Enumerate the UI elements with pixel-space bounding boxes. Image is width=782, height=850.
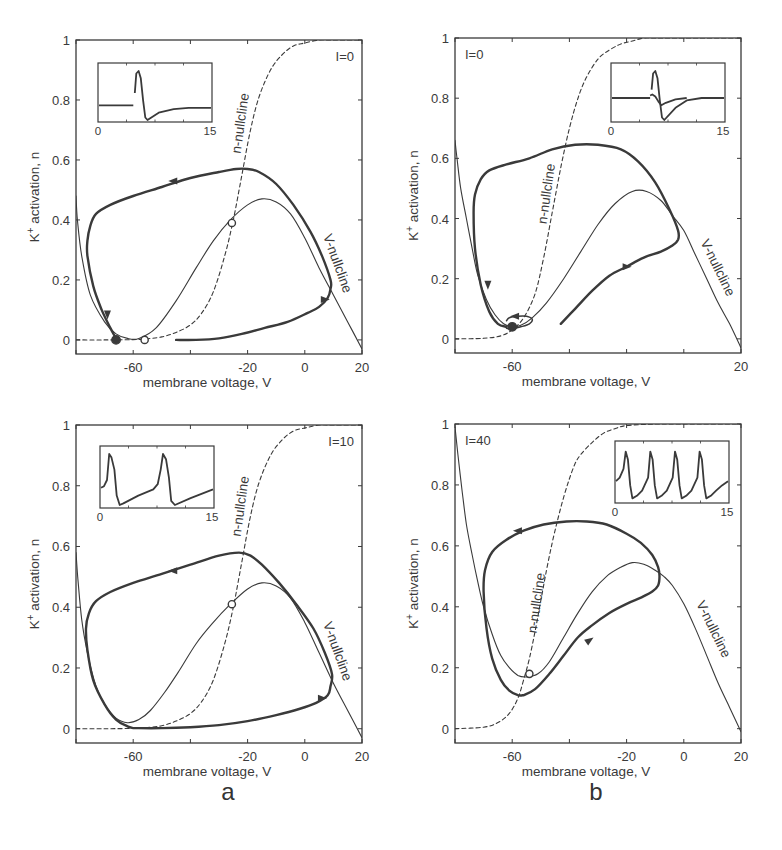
v-nullcline-label: V-nullcline (693, 598, 733, 660)
panel-b-bottom: -60-2002000.20.40.60.81membrane voltage,… (404, 417, 748, 779)
n-nullcline-label: n-nullcline (535, 163, 558, 225)
voltage-inset: 015 (97, 446, 219, 523)
y-tick-label: 1 (63, 33, 70, 48)
unstable-fixed-point-icon (141, 336, 148, 343)
limit-cycle-curve (484, 521, 660, 695)
x-tick-label: -60 (124, 749, 143, 764)
x-tick-label: 20 (355, 360, 369, 375)
y-tick-label: 0.6 (431, 151, 449, 166)
current-annotation: I=0 (336, 49, 354, 64)
panel-a-top: -60-2002000.20.40.60.81membrane voltage,… (25, 33, 369, 390)
limit-cycle-curve (86, 553, 332, 729)
y-tick-label: 0.6 (52, 539, 70, 554)
panel-a-bottom: -60-2002000.20.40.60.81membrane voltage,… (25, 418, 369, 779)
y-tick-label: 0.2 (431, 661, 449, 676)
y-tick-label: 0.8 (52, 93, 70, 108)
y-axis-label: K+ activation, n (404, 150, 421, 241)
inset-tick-label: 0 (608, 125, 614, 137)
x-tick-label: -20 (238, 360, 257, 375)
y-axis-label: K+ activation, n (25, 539, 42, 630)
x-tick-label: 0 (680, 749, 687, 764)
y-tick-label: 0.6 (431, 539, 449, 554)
y-tick-label: 0.2 (52, 273, 70, 288)
x-tick-label: 20 (734, 359, 748, 374)
x-tick-label: -60 (124, 360, 143, 375)
voltage-inset: 015 (95, 63, 217, 137)
v-nullcline-label: V-nullcline (698, 237, 738, 299)
inset-tick-label: 15 (206, 511, 219, 523)
n-nullcline-label: n-nullcline (229, 92, 252, 154)
voltage-inset: 015 (608, 63, 730, 137)
trajectory-curve (474, 144, 679, 327)
inset-tick-label: 15 (721, 506, 734, 518)
y-axis-label: K+ activation, n (25, 152, 42, 243)
inset-frame (611, 63, 725, 122)
unstable-fixed-point-icon (228, 601, 235, 608)
V-nullcline-curve (76, 196, 362, 349)
y-axis-label: K+ activation, n (404, 538, 421, 629)
n-nullcline-label: n-nullcline (525, 572, 548, 634)
current-annotation: I=0 (465, 47, 483, 62)
panel-b-top: -602000.20.40.60.81membrane voltage, VK+… (404, 31, 748, 389)
y-tick-label: 1 (442, 31, 449, 46)
y-tick-label: 0.6 (52, 153, 70, 168)
x-tick-label: 0 (301, 360, 308, 375)
x-tick-label: 20 (355, 749, 369, 764)
panel-letter-a: a (221, 778, 235, 805)
x-tick-label: 20 (734, 749, 748, 764)
inset-tick-label: 0 (612, 506, 618, 518)
y-tick-label: 0.4 (431, 600, 449, 615)
x-axis-label: membrane voltage, V (522, 374, 650, 389)
y-tick-label: 0 (442, 722, 449, 737)
panel-letter-b: b (589, 778, 602, 805)
phase-plane-figure: -60-2002000.20.40.60.81membrane voltage,… (0, 0, 782, 850)
trajectory-arrow-icon (168, 567, 177, 574)
inset-tick-label: 15 (204, 125, 217, 137)
y-tick-label: 1 (442, 417, 449, 432)
x-tick-label: 0 (301, 749, 308, 764)
y-tick-label: 0.8 (431, 478, 449, 493)
y-tick-label: 0 (63, 722, 70, 737)
y-tick-label: 0 (63, 333, 70, 348)
unstable-fixed-point-icon (526, 670, 533, 677)
x-axis-label: membrane voltage, V (143, 375, 271, 390)
y-tick-label: 0.4 (52, 213, 70, 228)
current-annotation: I=40 (465, 433, 491, 448)
y-tick-label: 1 (63, 418, 70, 433)
n-nullcline-label: n-nullcline (229, 475, 252, 537)
x-tick-label: -60 (503, 749, 522, 764)
x-axis-label: membrane voltage, V (522, 764, 650, 779)
trajectory-arrow-icon (484, 281, 491, 290)
inset-frame (98, 63, 212, 122)
x-tick-label: -60 (503, 359, 522, 374)
x-tick-label: -20 (238, 749, 257, 764)
trajectory-arrow-icon (510, 313, 519, 320)
y-tick-label: 0.8 (52, 479, 70, 494)
unstable-fixed-point-icon (228, 219, 235, 226)
stable-fixed-point-icon (112, 336, 120, 344)
current-annotation: I=10 (328, 434, 354, 449)
trajectory-curve (87, 169, 331, 340)
y-tick-label: 0.4 (52, 600, 70, 615)
x-tick-label: -20 (617, 749, 636, 764)
y-tick-label: 0.8 (431, 91, 449, 106)
x-axis-label: membrane voltage, V (143, 764, 271, 779)
trajectory-arrow-icon (584, 635, 595, 646)
y-tick-label: 0.2 (431, 272, 449, 287)
y-tick-label: 0 (442, 332, 449, 347)
V-nullcline-curve (76, 553, 362, 738)
inset-tick-label: 15 (717, 125, 730, 137)
voltage-inset: 015 (612, 441, 734, 518)
inset-tick-label: 0 (95, 125, 101, 137)
y-tick-label: 0.2 (52, 661, 70, 676)
y-tick-label: 0.4 (431, 212, 449, 227)
inset-tick-label: 0 (97, 511, 103, 523)
stable-fixed-point-icon (508, 323, 516, 331)
